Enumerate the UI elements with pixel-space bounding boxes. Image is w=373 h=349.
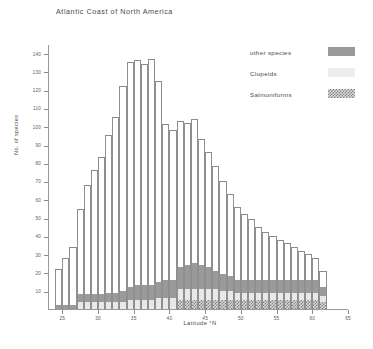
legend-item[interactable]: Clupeids (250, 67, 368, 88)
bar-segment (219, 291, 226, 300)
legend-item[interactable]: Salmoniforms (250, 88, 368, 109)
bar-segment (298, 300, 305, 309)
bar-segment (191, 119, 198, 263)
y-tick-label: 110 (33, 106, 41, 111)
chart-title: Atlantic Coast of North America (56, 7, 173, 16)
legend-item-label: other species (250, 49, 291, 56)
x-tick (348, 310, 349, 314)
y-tick (44, 219, 49, 220)
bar-segment (241, 280, 248, 293)
y-tick-label: 20 (35, 271, 41, 276)
x-tick (98, 310, 99, 314)
bar-segment (269, 293, 276, 300)
bar-segment (177, 300, 184, 309)
bar-segment (219, 300, 226, 309)
x-tick-label: 45 (202, 316, 208, 321)
bar (69, 247, 76, 309)
bar (134, 60, 141, 309)
bar (155, 70, 162, 309)
bar-segment (277, 300, 284, 309)
bar-segment (277, 280, 284, 293)
bar-segment (62, 258, 69, 306)
bar-segment (55, 269, 62, 306)
bar-segment (69, 247, 76, 305)
bar-segment (141, 300, 148, 309)
bar (141, 64, 148, 309)
x-tick-label: 40 (167, 316, 173, 321)
bar-segment (305, 300, 312, 309)
bar-segment (312, 300, 319, 309)
bar-segment (319, 271, 326, 287)
bar-segment (91, 302, 98, 309)
bar-segment (284, 293, 291, 300)
y-tick-label: 40 (35, 234, 41, 239)
bar-segment (205, 289, 212, 300)
bar-segment (284, 280, 291, 293)
x-tick-label: 65 (345, 316, 351, 321)
bar-segment (269, 236, 276, 280)
bar-segment (248, 300, 255, 309)
bar-segment (177, 289, 184, 300)
bar-segment (62, 305, 69, 309)
legend-item[interactable]: other species (250, 46, 368, 67)
bar (84, 185, 91, 309)
bar-segment (162, 280, 169, 298)
x-tick (62, 310, 63, 314)
bar (312, 258, 319, 309)
bar (212, 166, 219, 309)
y-tick-label: 90 (35, 143, 41, 148)
y-tick (44, 182, 49, 183)
bar (105, 135, 112, 309)
bar-segment (234, 280, 241, 293)
bar-segment (298, 293, 305, 300)
bar (305, 254, 312, 309)
bar-segment (119, 291, 126, 302)
bar-segment (241, 214, 248, 280)
bar-segment (134, 300, 141, 309)
bar-segment (141, 285, 148, 300)
bar (77, 208, 84, 309)
bar-segment (319, 287, 326, 296)
y-tick-label: 80 (35, 161, 41, 166)
bar-segment (227, 300, 234, 309)
bar-segment (234, 293, 241, 300)
y-axis-title: No. of species (13, 115, 19, 155)
bar-segment (248, 293, 255, 300)
bar-segment (262, 232, 269, 280)
bar (227, 194, 234, 309)
bar (262, 232, 269, 309)
bar-segment (184, 123, 191, 266)
bar-segment (298, 251, 305, 280)
bar-segment (91, 294, 98, 301)
bar-segment (262, 300, 269, 309)
bar (198, 139, 205, 309)
bar-segment (184, 265, 191, 289)
bar-segment (305, 293, 312, 300)
bar-segment (127, 287, 134, 300)
bar-segment (284, 243, 291, 280)
bar-segment (255, 300, 262, 309)
bar-segment (105, 293, 112, 302)
y-tick (44, 273, 49, 274)
bar-segment (212, 166, 219, 270)
bar-segment (105, 135, 112, 292)
x-tick-label: 35 (131, 316, 137, 321)
x-axis-title: Latitude °N (183, 320, 216, 326)
bar (248, 219, 255, 309)
bar (234, 207, 241, 309)
y-tick (44, 91, 49, 92)
bar-segment (248, 280, 255, 293)
bar-segment (105, 302, 112, 309)
x-tick-label: 60 (309, 316, 315, 321)
bar-segment (112, 293, 119, 302)
y-tick (44, 255, 49, 256)
bar-segment (134, 60, 141, 285)
bar-segment (298, 280, 305, 293)
bar-segment (191, 300, 198, 309)
bar (269, 236, 276, 309)
bar-segment (184, 289, 191, 300)
bar (184, 123, 191, 309)
bar-segment (98, 157, 105, 294)
bar-segment (312, 280, 319, 293)
bar-segment (169, 280, 176, 298)
